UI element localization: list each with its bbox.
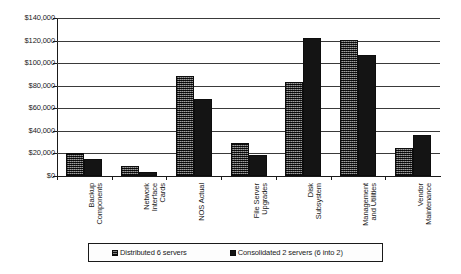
bar-group [395, 18, 431, 176]
x-axis-tick-mark [166, 176, 167, 180]
bar [194, 99, 212, 176]
bar-group [66, 18, 102, 176]
x-axis-category-label: Network Interface Cards [143, 183, 157, 239]
legend-entry-distributed: Distributed 6 servers [112, 248, 187, 257]
legend-swatch-icon [230, 250, 236, 256]
legend-label: Distributed 6 servers [120, 248, 187, 257]
bar [176, 76, 194, 176]
bar-group [285, 18, 321, 176]
bar [231, 143, 249, 176]
bar [121, 166, 139, 176]
x-axis-tick-mark [57, 176, 58, 180]
x-axis-tick-mark [331, 176, 332, 180]
bar-group [176, 18, 212, 176]
x-axis-line [57, 176, 441, 177]
bar-chart: $140,000$120,000$100,000$80,000$60,000$4… [0, 0, 461, 274]
x-axis-category-label: Disk Subsystem [307, 183, 321, 239]
x-axis-category-label: Management and Utilities [362, 183, 376, 239]
bar [66, 153, 84, 176]
bar [395, 148, 413, 176]
y-axis: $140,000$120,000$100,000$80,000$60,000$4… [0, 0, 55, 274]
y-axis-tick-label: $40,000 [3, 127, 55, 135]
plot-area [57, 18, 440, 176]
bar [285, 82, 303, 176]
bar [340, 40, 358, 176]
y-axis-tick-label: $20,000 [3, 149, 55, 157]
chart-legend: Distributed 6 servers Consolidated 2 ser… [88, 243, 383, 262]
bar-group [340, 18, 376, 176]
x-axis-tick-mark [385, 176, 386, 180]
legend-label: Consolidated 2 servers (6 into 2) [238, 248, 343, 257]
x-axis-category-label: NOS Actual [198, 183, 212, 239]
y-axis-tick-label: $120,000 [3, 37, 55, 45]
y-axis-tick-label: $80,000 [3, 82, 55, 90]
bar [84, 159, 102, 176]
x-axis-tick-mark [112, 176, 113, 180]
bar-group [231, 18, 267, 176]
y-axis-tick-label: $0 [3, 172, 55, 180]
y-axis-tick-label: $100,000 [3, 59, 55, 67]
bar-group [121, 18, 157, 176]
bar [358, 55, 376, 176]
y-axis-tick-label: $60,000 [3, 104, 55, 112]
bar [303, 38, 321, 176]
bar [413, 135, 431, 176]
x-axis-category-label: Vendor Maintenance [417, 183, 431, 239]
bar [139, 172, 157, 176]
x-axis-tick-mark [221, 176, 222, 180]
y-axis-tick-label: $140,000 [3, 14, 55, 22]
x-axis-category-label: File Server Upgrades [253, 183, 267, 239]
legend-swatch-icon [112, 250, 118, 256]
legend-entry-consolidated: Consolidated 2 servers (6 into 2) [230, 248, 343, 257]
x-axis-tick-mark [276, 176, 277, 180]
bar [249, 155, 267, 176]
x-axis-category-label: Backup Components [88, 183, 102, 239]
